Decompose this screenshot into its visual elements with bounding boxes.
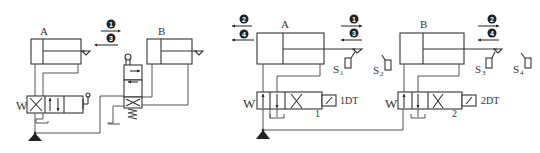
svg-text:2: 2 (380, 70, 384, 78)
cylinder-a-left: A (31, 25, 90, 64)
svg-text:2: 2 (490, 16, 494, 23)
cylinder-a-right: A (257, 18, 362, 64)
limit-switch-s1: S 1 (333, 52, 355, 77)
step-arrows-a-left: 2 4 (232, 15, 254, 42)
right-circuit: 2 4 A 1 3 (232, 15, 531, 140)
svg-text:3: 3 (352, 30, 356, 37)
solenoid-valve-1: W 1DT 1 (243, 92, 358, 119)
svg-text:S: S (333, 63, 339, 75)
svg-text:S: S (373, 64, 379, 76)
limit-switch-s2: S 2 (373, 55, 391, 78)
svg-text:2: 2 (242, 16, 246, 23)
spring-symbol: W (16, 99, 28, 113)
svg-text:3: 3 (482, 69, 486, 77)
cylinder-a-label: A (40, 25, 48, 37)
solenoid-valve-2: W 2DT 2 (385, 92, 499, 119)
cylinder-b-label: B (158, 25, 165, 37)
cylinder-b-right: B (400, 18, 502, 64)
svg-text:4: 4 (242, 31, 246, 38)
limit-switch-s3: S 3 (475, 52, 495, 77)
valve-number-1: 1 (315, 108, 320, 119)
manual-directional-valve: W (16, 93, 90, 123)
svg-text:3: 3 (109, 35, 113, 42)
cylinder-a-label: A (281, 18, 289, 30)
roller-directional-valve (108, 54, 142, 124)
solenoid-label-1dt: 1DT (340, 95, 358, 106)
svg-text:1: 1 (340, 69, 344, 77)
pump-symbol (28, 133, 42, 141)
limit-switch-s4: S 4 (513, 53, 531, 77)
svg-text:4: 4 (490, 30, 494, 37)
cylinder-b-left: B (142, 25, 203, 105)
svg-text:S: S (475, 63, 481, 75)
svg-text:1: 1 (352, 16, 356, 23)
spring-symbol: W (243, 96, 256, 111)
left-circuit: A 1 3 W (16, 20, 203, 142)
valve-number-2: 2 (452, 108, 457, 119)
step-arrows-a-right: 1 3 (341, 15, 362, 42)
cylinder-b-label: B (420, 18, 427, 30)
step-arrows-b-right: 2 4 (478, 15, 499, 42)
svg-text:1: 1 (109, 21, 113, 28)
svg-text:4: 4 (520, 69, 524, 77)
solenoid-label-2dt: 2DT (481, 95, 499, 106)
pump-symbol (256, 130, 270, 139)
hydraulic-diagram: A 1 3 W (0, 0, 540, 153)
svg-text:S: S (513, 63, 519, 75)
spring-symbol: W (385, 96, 398, 111)
step-arrows-left: 1 3 (94, 20, 121, 47)
